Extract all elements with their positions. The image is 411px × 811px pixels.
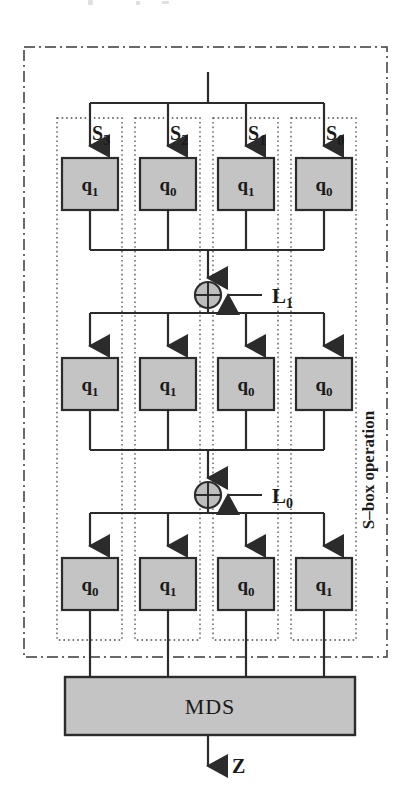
column-label-s0: S0 — [326, 122, 344, 148]
column-label-s1: S1 — [248, 122, 266, 148]
sbox-mds-dataflow-diagram: S3 S2 S1 S0 q1 q0 q1 q0 — [0, 0, 411, 811]
key-label-l0: L0 — [272, 484, 293, 511]
xor-l1-group — [195, 282, 262, 313]
xor-l0-group — [195, 482, 262, 513]
mds-label: MDS — [185, 694, 236, 719]
row-2-boxes — [62, 358, 352, 410]
row-2-fanout-wires — [90, 313, 324, 346]
sbox-operation-label: S–box operation — [359, 410, 378, 529]
output-label-z: Z — [232, 755, 245, 777]
key-label-l1: L1 — [272, 284, 293, 311]
row-3-to-mds-wires — [90, 610, 324, 677]
row-1-boxes — [62, 158, 352, 210]
row-3-boxes — [62, 558, 352, 610]
column-label-s2: S2 — [170, 122, 188, 148]
row-1-to-merge-wires — [90, 210, 324, 278]
row-3-fanout-wires — [90, 513, 324, 546]
figure-canvas: S3 S2 S1 S0 q1 q0 q1 q0 — [0, 0, 411, 811]
row-2-to-merge-wires — [90, 410, 324, 478]
column-label-s3: S3 — [92, 122, 110, 148]
input-wire-group — [90, 72, 324, 146]
